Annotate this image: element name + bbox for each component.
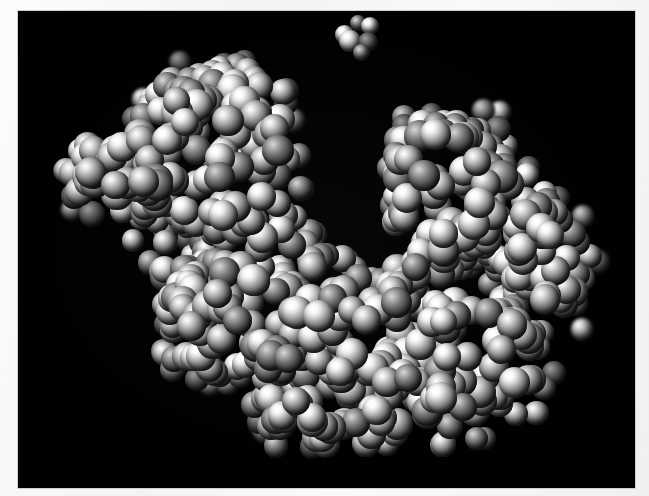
atom-sphere bbox=[394, 364, 422, 392]
atom-sphere bbox=[524, 401, 549, 426]
atom-sphere bbox=[122, 229, 145, 252]
figure-root bbox=[0, 0, 649, 496]
atom-sphere bbox=[381, 287, 412, 318]
atom-sphere bbox=[237, 264, 269, 296]
atom-sphere bbox=[352, 305, 381, 334]
atom-sphere bbox=[326, 357, 355, 386]
atom-sphere bbox=[208, 200, 238, 230]
atom-sphere bbox=[247, 182, 276, 211]
atom-sphere bbox=[353, 44, 370, 61]
atom-sphere bbox=[128, 166, 159, 197]
atom-sphere bbox=[303, 300, 335, 332]
atom-sphere bbox=[536, 221, 564, 249]
atom-sphere bbox=[463, 147, 492, 176]
atom-sphere bbox=[408, 160, 440, 192]
atom-sphere bbox=[204, 162, 234, 192]
atom-sphere bbox=[170, 196, 198, 224]
atom-sphere bbox=[101, 171, 130, 200]
atom-sphere bbox=[262, 135, 293, 166]
atom-sphere bbox=[429, 219, 457, 247]
molecular-render-canvas bbox=[18, 11, 635, 488]
atom-sphere bbox=[362, 396, 391, 425]
atom-sphere bbox=[402, 253, 430, 281]
atom-sphere bbox=[499, 367, 530, 398]
atom-sphere bbox=[425, 382, 457, 414]
atom-sphere bbox=[177, 311, 206, 340]
atom-sphere bbox=[153, 230, 178, 255]
atom-sphere bbox=[282, 387, 310, 415]
main-macromolecule bbox=[18, 11, 635, 488]
atom-sphere bbox=[571, 318, 594, 341]
atom-sphere bbox=[270, 79, 296, 105]
atom-sphere bbox=[171, 108, 199, 136]
atom-sphere bbox=[487, 335, 516, 364]
atom-sphere bbox=[464, 187, 495, 218]
atom-sphere bbox=[530, 284, 561, 315]
atom-sphere bbox=[288, 176, 313, 201]
